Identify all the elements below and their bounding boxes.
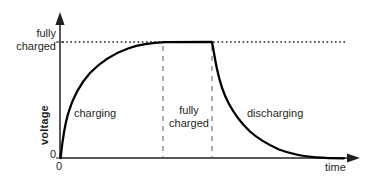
voltage-curve xyxy=(61,42,345,158)
region-label-charging: charging xyxy=(74,107,116,120)
x-axis-title: time xyxy=(325,161,346,174)
y-axis-zero-label: 0 xyxy=(44,148,56,161)
region-label-discharging: discharging xyxy=(247,107,303,120)
region-label-fully-charged: fully charged xyxy=(166,104,212,130)
capacitor-voltage-diagram: voltage fully charged 0 0 time charging … xyxy=(0,0,376,184)
chart-canvas xyxy=(0,0,376,184)
y-axis-title: voltage xyxy=(38,95,51,155)
x-axis-zero-label: 0 xyxy=(56,160,62,173)
y-axis-max-label: fully charged xyxy=(0,27,56,53)
